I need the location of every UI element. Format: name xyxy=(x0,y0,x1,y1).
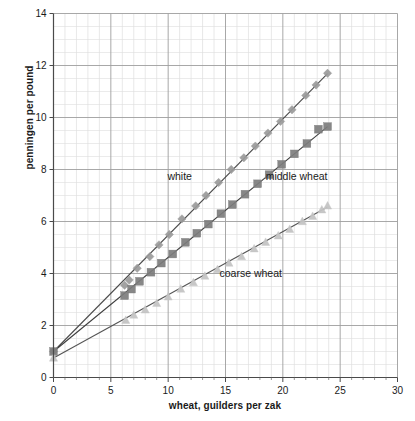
data-point xyxy=(290,150,298,158)
y-axis-tick-label: 12 xyxy=(35,60,47,71)
data-point xyxy=(303,140,311,148)
data-point xyxy=(314,125,322,133)
x-axis-tick-label: 10 xyxy=(163,385,175,396)
series-annotation-middle-wheat: middle wheat xyxy=(266,170,328,182)
chart-canvas: 02468101214051015202530whitemiddle wheat… xyxy=(0,0,415,421)
y-axis-tick-label: 8 xyxy=(41,164,47,175)
y-axis-tick-label: 0 xyxy=(41,372,47,383)
y-axis-tick-label: 6 xyxy=(41,216,47,227)
data-point xyxy=(121,292,129,300)
series-annotation-white: white xyxy=(166,170,192,182)
data-point xyxy=(157,259,165,267)
x-axis-tick-label: 30 xyxy=(392,385,404,396)
x-axis-tick-label: 15 xyxy=(220,385,232,396)
y-axis-tick-label: 10 xyxy=(35,112,47,123)
data-point xyxy=(241,190,249,198)
data-point xyxy=(136,277,144,285)
y-axis-tick-label: 2 xyxy=(41,320,47,331)
x-axis-tick-label: 5 xyxy=(108,385,114,396)
data-point xyxy=(254,180,262,188)
data-point xyxy=(193,229,201,237)
y-axis-tick-label: 4 xyxy=(41,268,47,279)
data-point xyxy=(278,160,286,168)
data-point xyxy=(169,250,177,258)
y-axis-tick-label: 14 xyxy=(35,8,47,19)
x-axis-tick-label: 20 xyxy=(277,385,289,396)
x-axis-tick-label: 0 xyxy=(51,385,57,396)
data-point xyxy=(217,210,225,218)
y-axis-label: penningen per pound xyxy=(24,33,35,203)
data-point xyxy=(128,285,136,293)
data-point xyxy=(228,201,236,209)
data-point xyxy=(324,123,332,131)
chart-root: 02468101214051015202530whitemiddle wheat… xyxy=(0,0,415,421)
data-point xyxy=(181,238,189,246)
series-annotation-coarse-wheat: coarse wheat xyxy=(220,267,283,279)
scatter-plot: 02468101214051015202530whitemiddle wheat… xyxy=(0,0,415,421)
data-point xyxy=(147,268,155,276)
x-axis-tick-label: 25 xyxy=(335,385,347,396)
x-axis-label: wheat, guilders per zak xyxy=(53,400,397,411)
data-point xyxy=(204,220,212,228)
